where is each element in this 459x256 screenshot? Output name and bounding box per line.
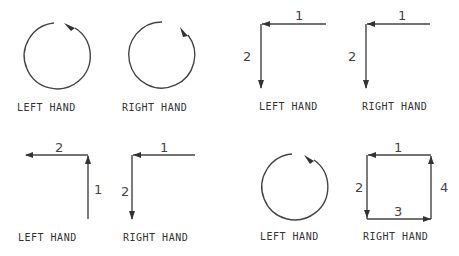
hand-label: LEFT HAND [17, 102, 76, 113]
arrowhead-icon [129, 211, 135, 220]
arrowhead-icon [428, 156, 434, 164]
arrowhead-icon [85, 155, 91, 164]
stroke-number: 3 [394, 204, 402, 219]
arrowhead-icon [423, 216, 431, 222]
arrowhead-icon [304, 155, 314, 164]
stroke-number: 1 [398, 8, 406, 23]
arrowhead-icon [364, 210, 370, 218]
circular-arrow-path [262, 154, 328, 220]
diagram-svg: LEFT HAND RIGHT HAND 1 2 LEFT HAND 1 2 R… [0, 0, 459, 256]
fig-top-right-corner: 1 2 RIGHT HAND [348, 8, 430, 112]
hand-label: RIGHT HAND [123, 232, 188, 243]
hand-label: RIGHT HAND [363, 231, 428, 242]
hand-label: RIGHT HAND [122, 102, 187, 113]
circular-arrow-path [129, 22, 195, 88]
hand-label: RIGHT HAND [362, 101, 427, 112]
fig-bottom-left-corner: 2 1 LEFT HAND [18, 140, 102, 243]
arrowhead-icon [25, 152, 33, 158]
stroke-number: 4 [440, 180, 448, 195]
arrowhead-icon [262, 21, 270, 27]
stroke-number: 1 [160, 140, 168, 155]
hand-label: LEFT HAND [260, 231, 319, 242]
arrowhead-icon [180, 27, 188, 37]
stroke-number: 2 [55, 140, 63, 155]
fig-bottom-right-circle: LEFT HAND [260, 154, 328, 242]
stroke-number: 1 [394, 140, 402, 155]
fig-bottom-right-square: 1 2 3 4 RIGHT HAND [355, 140, 448, 242]
circular-arrow-path [24, 23, 90, 89]
arrowhead-icon [367, 21, 375, 27]
stroke-number: 2 [355, 180, 363, 195]
stroke-number: 2 [348, 49, 356, 64]
arrowhead-icon [258, 80, 264, 89]
stroke-number: 1 [295, 8, 303, 23]
stroke-number: 2 [121, 184, 129, 199]
fig-bottom-mid-corner: 1 2 RIGHT HAND [121, 140, 195, 243]
arrowhead-icon [133, 152, 141, 158]
stroke-number: 1 [94, 182, 102, 197]
diagram-canvas: LEFT HAND RIGHT HAND 1 2 LEFT HAND 1 2 R… [0, 0, 459, 256]
fig-top-right-circle: RIGHT HAND [122, 22, 195, 113]
arrowhead-icon [64, 23, 75, 31]
fig-top-left-corner: 1 2 LEFT HAND [243, 8, 326, 112]
hand-label: LEFT HAND [259, 101, 318, 112]
hand-label: LEFT HAND [18, 232, 77, 243]
arrowhead-icon [363, 80, 369, 89]
arrowhead-icon [368, 152, 376, 158]
stroke-number: 2 [243, 49, 251, 64]
fig-top-left-circle: LEFT HAND [17, 23, 90, 113]
